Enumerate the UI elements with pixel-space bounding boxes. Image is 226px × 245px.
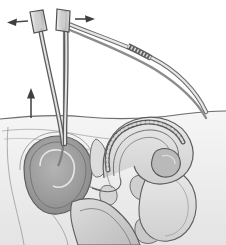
glans-penis	[152, 149, 181, 177]
medical-illustration-svg	[0, 0, 226, 245]
figure-canvas: Suprapubic catheter insertion — sagittal…	[0, 0, 226, 245]
right-handle-shadow	[59, 12, 66, 28]
right-peel-away-handle	[56, 9, 70, 32]
